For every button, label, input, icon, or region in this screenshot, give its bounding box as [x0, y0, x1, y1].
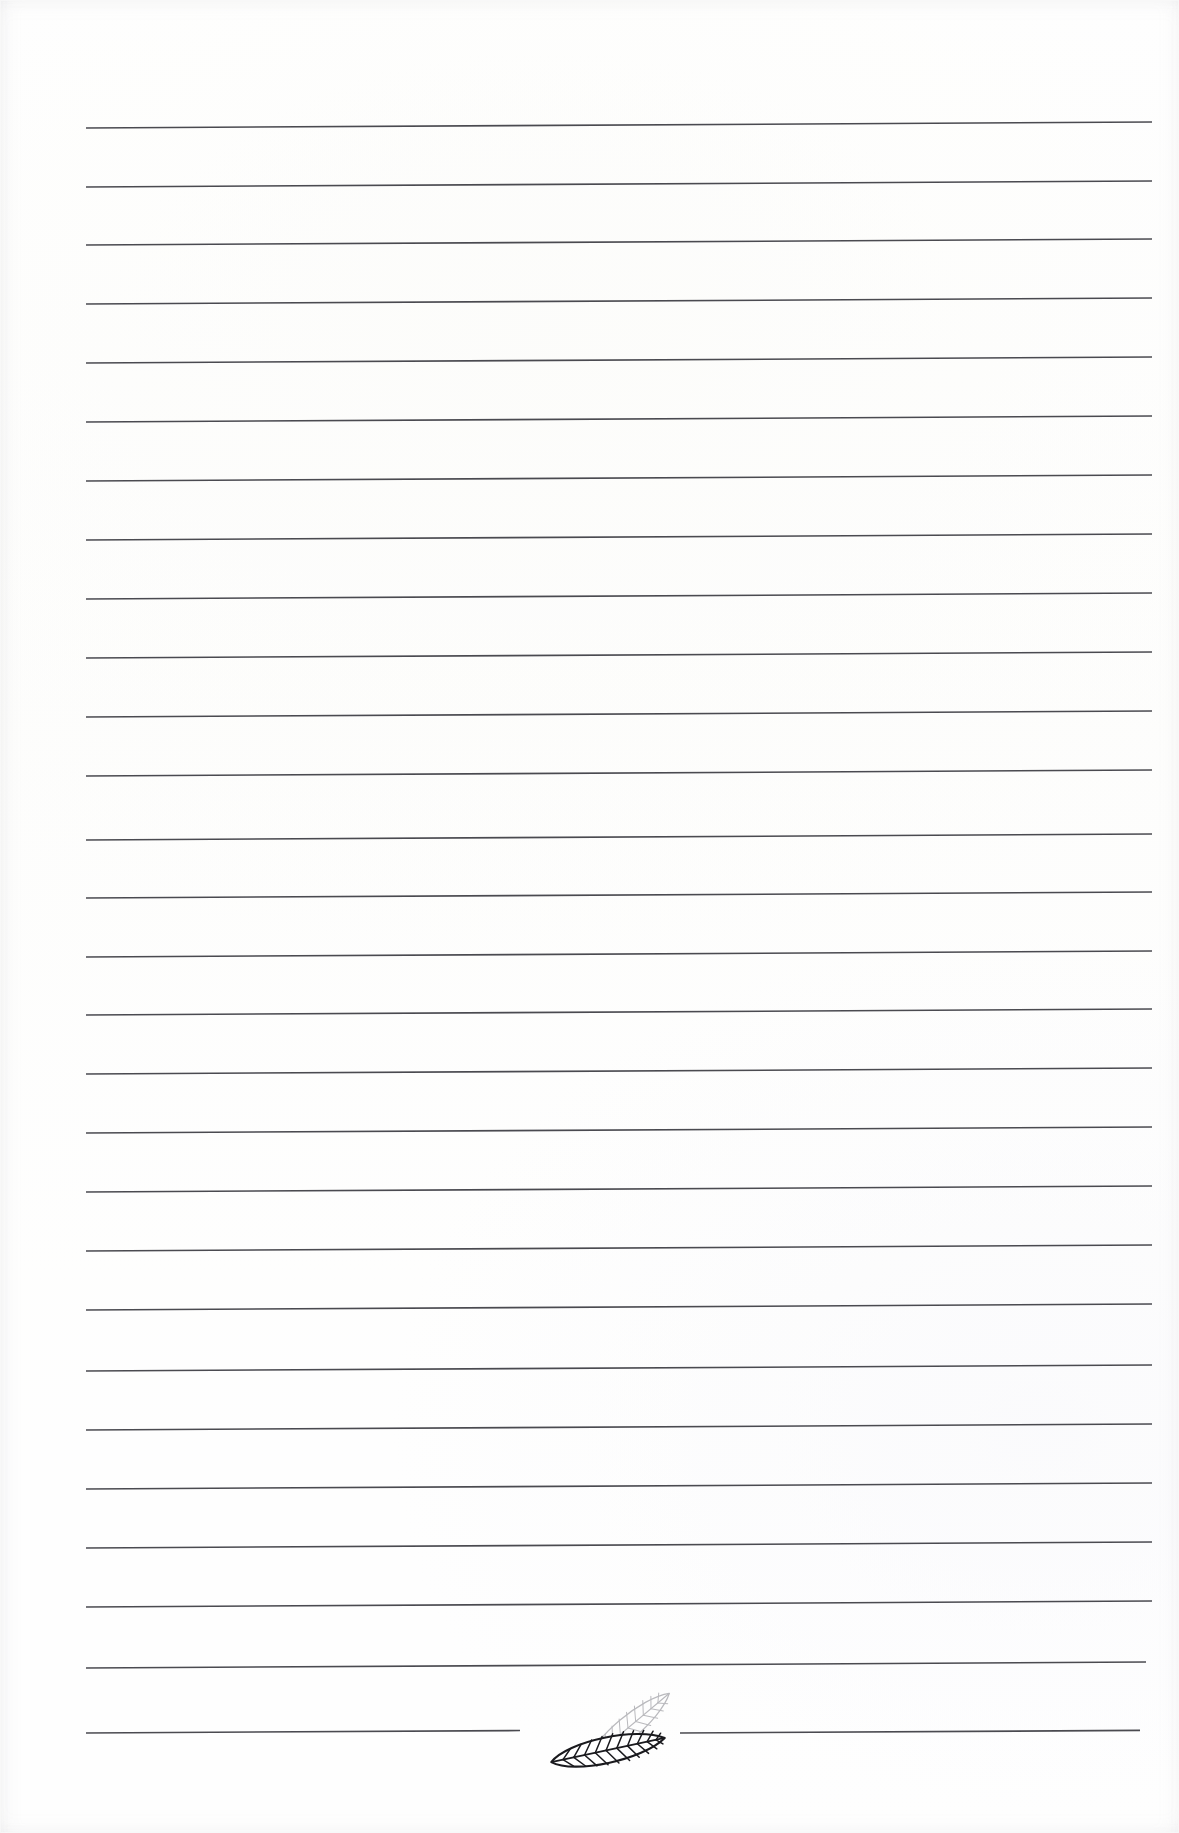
ruled-line	[86, 1542, 1152, 1548]
ruled-line	[680, 1730, 1140, 1733]
ruled-line	[86, 534, 1152, 540]
ruled-line	[86, 1304, 1152, 1310]
ruled-lines-group	[86, 122, 1152, 1733]
ruled-line	[86, 1186, 1152, 1192]
ruled-line	[86, 1127, 1152, 1133]
ruled-line	[86, 1601, 1152, 1607]
ruled-line	[86, 711, 1152, 717]
ruled-line	[86, 1731, 520, 1733]
ruled-line	[86, 475, 1152, 481]
notepad-page	[0, 0, 1179, 1833]
ruled-line	[86, 298, 1152, 304]
ruled-line	[86, 951, 1152, 957]
ruled-line	[86, 416, 1152, 422]
ruled-line	[86, 1009, 1152, 1015]
ruled-line	[86, 892, 1152, 898]
ruled-line	[86, 1424, 1152, 1430]
ruled-line	[86, 1662, 1146, 1668]
ruled-line	[86, 593, 1152, 599]
ruled-lines-layer	[0, 0, 1179, 1833]
ruled-line	[86, 834, 1152, 840]
ruled-lines-svg	[0, 0, 1179, 1833]
ruled-line	[86, 1068, 1152, 1074]
ruled-line	[86, 181, 1152, 187]
ruled-line	[86, 122, 1152, 128]
ruled-line	[86, 1365, 1152, 1371]
ruled-line	[86, 357, 1152, 363]
ruled-line	[86, 1483, 1152, 1489]
ruled-line	[86, 1245, 1152, 1251]
ruled-line	[86, 652, 1152, 658]
ruled-line	[86, 770, 1152, 776]
ruled-line	[86, 239, 1152, 245]
